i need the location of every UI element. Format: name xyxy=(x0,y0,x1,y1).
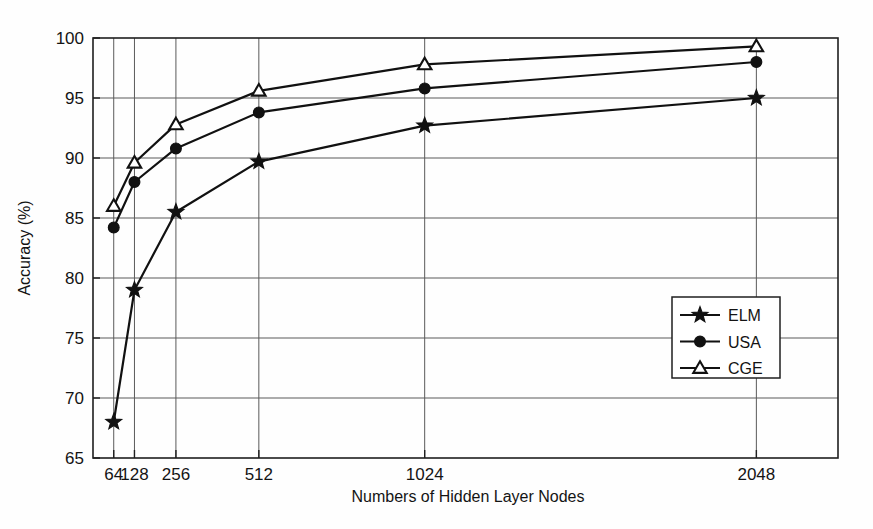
y-tick-label: 85 xyxy=(65,209,84,228)
chart-container: 65707580859095100 6412825651210242048 Ac… xyxy=(0,0,873,529)
accuracy-line-chart: 65707580859095100 6412825651210242048 Ac… xyxy=(0,0,873,529)
legend-label-usa: USA xyxy=(728,334,761,351)
legend-box xyxy=(672,297,780,378)
y-tick-label: 90 xyxy=(65,149,84,168)
y-tick-label: 80 xyxy=(65,269,84,288)
y-tick-label: 95 xyxy=(65,89,84,108)
y-tick-label: 75 xyxy=(65,329,84,348)
data-point-usa-1024 xyxy=(419,83,430,94)
data-point-usa-128 xyxy=(129,177,140,188)
x-tick-label: 512 xyxy=(245,465,273,484)
y-tick-label: 70 xyxy=(65,389,84,408)
x-tick-label: 2048 xyxy=(737,465,775,484)
x-axis-title: Numbers of Hidden Layer Nodes xyxy=(351,488,584,505)
data-point-usa-512 xyxy=(253,107,264,118)
data-point-usa-64 xyxy=(108,222,119,233)
x-tick-label: 128 xyxy=(120,465,148,484)
y-tick-label: 65 xyxy=(65,449,84,468)
y-axis-title: Accuracy (%) xyxy=(16,200,33,295)
x-tick-label: 256 xyxy=(162,465,190,484)
chart-legend[interactable]: ELMUSACGE xyxy=(672,297,780,378)
legend-label-elm: ELM xyxy=(728,307,761,324)
legend-marker-usa xyxy=(695,336,706,347)
legend-label-cge: CGE xyxy=(728,360,763,377)
data-point-usa-256 xyxy=(171,143,182,154)
chart-background xyxy=(0,0,873,529)
data-point-usa-2048 xyxy=(751,57,762,68)
y-tick-label: 100 xyxy=(56,29,84,48)
x-tick-label: 1024 xyxy=(406,465,444,484)
